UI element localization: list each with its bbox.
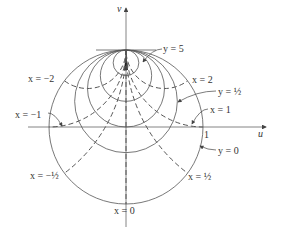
label-x-minus-half: x = −½: [30, 171, 59, 181]
u-axis-label: u: [258, 129, 263, 139]
leader-x-1: [192, 109, 208, 124]
axes: [28, 8, 266, 227]
label-x-half: x = ½: [188, 172, 211, 182]
v-axis-label: v: [117, 4, 121, 14]
leader-y-0: [200, 146, 216, 150]
label-leaders: [48, 49, 216, 150]
x-curve-minus-0p5: [0, 0, 126, 204]
label-x-minus-1: x = −1: [15, 110, 41, 120]
label-y-half: y = ½: [218, 87, 241, 97]
label-x-2: x = 2: [192, 75, 213, 85]
conformal-map-diagram: [0, 0, 281, 236]
label-x-1: x = 1: [210, 105, 231, 115]
label-x-0: x = 0: [114, 206, 135, 216]
label-y-5: y = 5: [163, 44, 184, 54]
x-curve-minus-1: [0, 0, 126, 127]
unit-tick-label: 1: [204, 130, 209, 140]
label-y-0: y = 0: [218, 146, 239, 156]
x-curve-1: [126, 0, 280, 127]
label-x-minus-2: x = −2: [28, 74, 54, 84]
